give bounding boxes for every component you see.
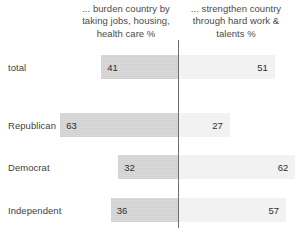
bar-left: 41 <box>101 55 178 79</box>
table-row: Republican6327 <box>0 113 297 137</box>
bar-right: 27 <box>179 113 229 137</box>
table-row: Democrat3262 <box>0 155 297 179</box>
chart-rows: total4151Republican6327Democrat3262Indep… <box>0 0 297 238</box>
bar-value-right: 51 <box>257 62 268 73</box>
row-label: Independent <box>8 205 61 216</box>
bar-left: 63 <box>60 113 178 137</box>
row-label: Democrat <box>8 162 50 173</box>
row-label: Republican <box>8 120 56 131</box>
bar-value-left: 32 <box>124 162 135 173</box>
bar-right: 57 <box>179 198 286 222</box>
row-label: total <box>8 62 26 73</box>
bar-right: 62 <box>179 155 295 179</box>
bar-value-right: 62 <box>278 162 289 173</box>
table-row: Independent3657 <box>0 198 297 222</box>
bar-left: 36 <box>111 198 178 222</box>
bar-value-left: 63 <box>66 120 77 131</box>
bar-right: 51 <box>179 55 274 79</box>
table-row: total4151 <box>0 55 297 79</box>
bar-left: 32 <box>118 155 178 179</box>
diverging-bar-chart: ... burden country by taking jobs, housi… <box>0 0 297 238</box>
bar-value-right: 27 <box>212 120 223 131</box>
bar-value-left: 41 <box>107 62 118 73</box>
bar-value-left: 36 <box>117 205 128 216</box>
bar-value-right: 57 <box>268 205 279 216</box>
